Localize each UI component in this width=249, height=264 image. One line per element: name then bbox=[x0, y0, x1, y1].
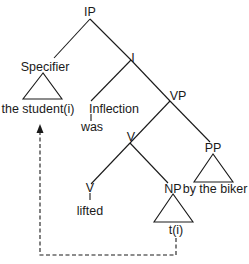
tree-triangles bbox=[23, 73, 233, 222]
edge-ip-i bbox=[90, 19, 131, 60]
node-np: NP bbox=[164, 182, 181, 196]
node-v-bar: V bbox=[127, 130, 136, 144]
leaf-was: was bbox=[80, 120, 103, 134]
node-ip: IP bbox=[84, 5, 96, 19]
edge-ip-specifier bbox=[54, 19, 90, 58]
triangle-specifier bbox=[23, 73, 62, 99]
node-v: V bbox=[86, 181, 95, 195]
triangle-pp bbox=[194, 154, 233, 182]
syntax-tree-diagram: IP Specifier I Inflection VP V PP V NP t… bbox=[0, 0, 249, 264]
tree-labels: IP Specifier I Inflection VP V PP V NP bbox=[21, 5, 222, 196]
node-inflection: Inflection bbox=[89, 102, 139, 116]
triangle-np bbox=[154, 194, 193, 222]
edge-vbar-np bbox=[130, 143, 168, 183]
tree-leaves: the student(i) was lifted by the biker t… bbox=[2, 102, 248, 237]
node-i-bar: I bbox=[131, 51, 134, 65]
leaf-the-student: the student(i) bbox=[2, 102, 75, 116]
edge-vbar-v bbox=[91, 143, 130, 184]
leaf-by-the-biker: by the biker bbox=[183, 182, 248, 196]
leaf-trace: t(i) bbox=[169, 223, 184, 237]
movement-arrow bbox=[37, 124, 177, 255]
edge-vp-pp bbox=[170, 101, 210, 142]
node-pp: PP bbox=[205, 141, 222, 155]
edge-i-vp bbox=[131, 60, 170, 101]
arrow-head-icon bbox=[37, 124, 44, 133]
leaf-lifted: lifted bbox=[77, 204, 103, 218]
edge-i-inflection bbox=[91, 60, 131, 101]
movement-dashed-line bbox=[40, 133, 176, 255]
node-vp: VP bbox=[170, 89, 187, 103]
node-specifier: Specifier bbox=[21, 60, 70, 74]
